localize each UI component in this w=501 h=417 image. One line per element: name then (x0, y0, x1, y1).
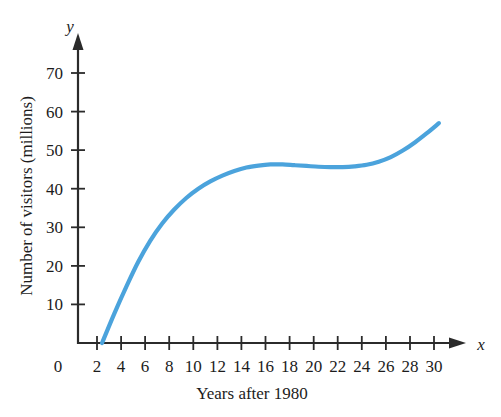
x-axis-title: Years after 1980 (196, 384, 308, 403)
x-tick-label-16: 16 (257, 357, 274, 376)
x-axis (77, 338, 466, 349)
y-axis-arrow-icon (73, 33, 84, 50)
y-axis-title: Number of visitors (millions) (17, 96, 36, 296)
x-axis-arrow-icon (449, 338, 466, 349)
y-axis-letter: y (64, 17, 74, 36)
x-axis-letter: x (476, 335, 485, 354)
chart-figure: 70 60 50 40 30 20 10 (0, 0, 501, 417)
x-tick-label-4: 4 (117, 357, 126, 376)
x-tick-label-18: 18 (281, 357, 298, 376)
x-tick-label-26: 26 (377, 357, 394, 376)
x-axis-tick-labels: 0 2 4 6 8 10 12 14 16 18 20 22 24 26 28 … (54, 357, 443, 376)
y-tick-label-50: 50 (46, 141, 63, 160)
y-tick-label-30: 30 (46, 218, 63, 237)
x-tick-label-12: 12 (209, 357, 226, 376)
y-tick-label-70: 70 (46, 64, 63, 83)
y-tick-label-40: 40 (46, 180, 63, 199)
visitors-curve (102, 123, 439, 343)
x-tick-label-0: 0 (54, 357, 63, 376)
x-tick-label-8: 8 (165, 357, 174, 376)
x-tick-label-28: 28 (402, 357, 419, 376)
y-tick-label-60: 60 (46, 103, 63, 122)
x-tick-label-10: 10 (185, 357, 202, 376)
x-tick-label-14: 14 (233, 357, 251, 376)
x-tick-label-22: 22 (329, 357, 346, 376)
visitors-line-chart: 70 60 50 40 30 20 10 (0, 0, 501, 417)
x-tick-label-30: 30 (426, 357, 443, 376)
y-axis-tick-labels: 70 60 50 40 30 20 10 (46, 64, 63, 314)
x-tick-label-24: 24 (353, 357, 371, 376)
y-tick-label-10: 10 (46, 295, 63, 314)
x-tick-label-6: 6 (141, 357, 150, 376)
x-tick-label-20: 20 (305, 357, 322, 376)
y-tick-label-20: 20 (46, 257, 63, 276)
x-tick-label-2: 2 (93, 357, 102, 376)
